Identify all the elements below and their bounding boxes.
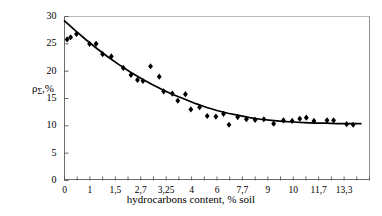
data-point-marker [297, 116, 302, 122]
data-point-marker [148, 63, 153, 69]
x-axis-title: hydrocarbons content, % soil [0, 193, 382, 205]
data-point-marker [344, 121, 349, 127]
chart-figure: ρΣ,% 051015202530 011,52,73,25467,791011… [0, 0, 382, 216]
data-point-marker [227, 122, 232, 128]
data-point-marker [183, 91, 188, 97]
data-point-marker [261, 116, 266, 122]
chart-canvas [0, 0, 382, 216]
data-point-marker [331, 117, 336, 123]
data-point-marker [304, 115, 309, 121]
data-point-marker [213, 113, 218, 119]
data-point-marker [290, 118, 295, 124]
data-point-marker [188, 106, 193, 112]
data-point-marker [175, 98, 180, 104]
data-point-marker [351, 122, 356, 128]
data-point-marker [281, 117, 286, 123]
data-point-marker [74, 31, 79, 37]
fit-curve [65, 21, 361, 124]
data-point-marker [157, 74, 162, 80]
data-point-marker [205, 113, 210, 119]
